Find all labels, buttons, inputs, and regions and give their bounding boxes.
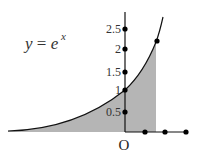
exponential-diagram: 0.5 1 1.5 2 2.5 O y = e x [0, 0, 200, 157]
y-tick-label-0.5: 0.5 [106, 105, 121, 119]
y-tick-dot-2.5 [122, 26, 127, 31]
equation-label: y = e [23, 34, 59, 53]
equation-exponent: x [60, 30, 66, 42]
y-tick-label-1: 1 [115, 83, 121, 97]
y-tick-dot-0.5 [122, 109, 127, 114]
y-tick-dot-2 [122, 46, 127, 51]
shaded-area [8, 42, 156, 132]
y-tick-label-2.5: 2.5 [106, 22, 121, 36]
y-tick-dot-1.5 [122, 69, 127, 74]
equation-base: e [51, 34, 59, 53]
x-point-dot-3 [183, 129, 188, 134]
y-tick-label-1.5: 1.5 [106, 65, 121, 79]
curve-point-dot [154, 38, 159, 43]
x-point-dot-2 [162, 129, 167, 134]
x-point-dot-1 [142, 129, 147, 134]
equation-equals: = [37, 34, 47, 53]
origin-label: O [119, 137, 130, 153]
y-tick-dot-1 [122, 87, 127, 92]
y-tick-label-2: 2 [115, 42, 121, 56]
equation-lhs: y [23, 34, 33, 53]
